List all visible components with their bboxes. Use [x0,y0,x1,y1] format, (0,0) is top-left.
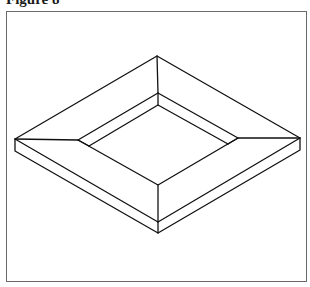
well-floor-back-edges [89,105,228,146]
well-right-wall-edge [228,138,238,144]
isometric-tray-drawing [0,0,310,287]
bevel-crease-left [15,139,78,140]
well-left-wall-edge [78,140,89,146]
bevel-crease-back [157,56,158,93]
